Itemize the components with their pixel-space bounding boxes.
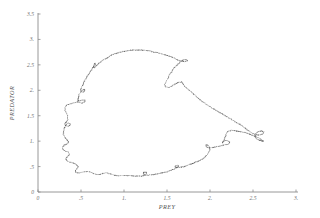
orbit-point <box>247 133 248 134</box>
orbit-point <box>67 114 68 115</box>
orbit-point <box>195 95 196 96</box>
orbit-point <box>258 139 259 140</box>
orbit-point <box>65 111 66 112</box>
orbit-point <box>161 53 162 54</box>
orbit-point <box>136 176 137 177</box>
orbit-point <box>209 147 210 148</box>
orbit-point <box>66 125 67 126</box>
orbit-point <box>207 154 208 155</box>
orbit-point <box>91 69 92 70</box>
orbit-point <box>178 63 179 64</box>
orbit-point <box>81 88 82 89</box>
orbit-point <box>180 167 181 168</box>
orbit-point <box>120 175 121 176</box>
orbit-point <box>64 130 65 131</box>
orbit-point <box>146 172 147 173</box>
orbit-point <box>109 56 110 57</box>
orbit-point <box>239 124 240 125</box>
orbit-point <box>233 130 234 131</box>
orbit-point <box>130 50 131 51</box>
orbit-point <box>170 56 171 57</box>
orbit-point <box>68 156 69 157</box>
orbit-point <box>228 143 229 144</box>
orbit-point <box>200 160 201 161</box>
orbit-point <box>80 89 81 90</box>
orbit-point <box>64 128 65 129</box>
orbit-point <box>144 50 145 51</box>
orbit-point <box>63 149 64 150</box>
orbit-point <box>76 169 77 170</box>
orbit-point <box>237 131 238 132</box>
orbit-point <box>64 136 65 137</box>
orbit-point <box>231 118 232 119</box>
orbit-point <box>84 172 85 173</box>
orbit-point <box>119 52 120 53</box>
orbit-point <box>168 56 169 57</box>
orbit-point <box>88 171 89 172</box>
orbit-point <box>108 57 109 58</box>
orbit-point <box>256 136 257 137</box>
orbit-point <box>226 144 227 145</box>
orbit-point <box>220 146 221 147</box>
orbit-point <box>225 140 226 141</box>
orbit-point <box>226 140 227 141</box>
orbit-point <box>158 53 159 54</box>
orbit-point <box>231 119 232 120</box>
orbit-point <box>85 101 86 102</box>
orbit-point <box>68 126 69 127</box>
orbit-point <box>118 175 119 176</box>
x-axis-group: 0.51.1.52.2.53. <box>37 190 299 201</box>
y-tick-label: 3.5 <box>26 11 34 17</box>
orbit-point <box>222 113 223 114</box>
orbit-point <box>77 172 78 173</box>
orbit-point <box>205 145 206 146</box>
orbit-point <box>88 74 89 75</box>
orbit-point <box>67 118 68 119</box>
orbit-point <box>224 137 225 138</box>
orbit-point <box>146 174 147 175</box>
orbit-point <box>68 123 69 124</box>
orbit-point <box>228 117 229 118</box>
orbit-point <box>258 139 259 140</box>
orbit-point <box>135 50 136 51</box>
orbit-point <box>177 165 178 166</box>
orbit-point <box>176 59 177 60</box>
orbit-point <box>95 174 96 175</box>
orbit-point <box>171 170 172 171</box>
orbit-point <box>106 172 107 173</box>
orbit-point <box>115 53 116 54</box>
orbit-point <box>178 166 179 167</box>
orbit-point <box>184 62 185 63</box>
orbit-point <box>81 91 82 92</box>
orbit-point <box>158 173 159 174</box>
orbit-point <box>87 171 88 172</box>
orbit-point <box>228 144 229 145</box>
orbit-point <box>251 132 252 133</box>
orbit-point <box>127 50 128 51</box>
orbit-point <box>67 144 68 145</box>
orbit-point <box>170 170 171 171</box>
orbit-point <box>140 50 141 51</box>
orbit-point <box>248 133 249 134</box>
orbit-point <box>82 86 83 87</box>
orbit-point <box>252 135 253 136</box>
orbit-curve-group <box>62 49 264 176</box>
orbit-point <box>80 90 81 91</box>
orbit-point <box>204 157 205 158</box>
orbit-point <box>189 164 190 165</box>
orbit-point <box>171 72 172 73</box>
orbit-point <box>68 104 69 105</box>
x-tick-label: 0 <box>37 195 40 201</box>
orbit-point <box>192 92 193 93</box>
orbit-point <box>216 110 217 111</box>
orbit-point <box>225 140 226 141</box>
orbit-point <box>229 118 230 119</box>
orbit-point <box>67 104 68 105</box>
orbit-point <box>168 87 169 88</box>
orbit-point <box>66 159 67 160</box>
orbit-point <box>77 168 78 169</box>
orbit-point <box>258 137 259 138</box>
orbit-point <box>81 87 82 88</box>
orbit-point <box>246 129 247 130</box>
x-tick-label: .5 <box>79 195 83 201</box>
